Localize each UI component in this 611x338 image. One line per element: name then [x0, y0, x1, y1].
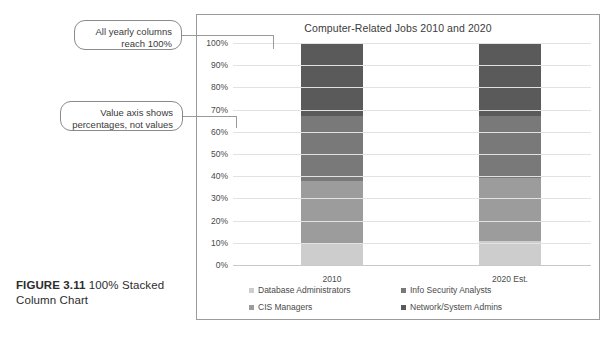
bar-segment[interactable] — [301, 243, 363, 265]
legend-item[interactable]: Info Security Analysts — [401, 285, 491, 295]
gridline — [233, 132, 591, 133]
bar-segment[interactable] — [301, 181, 363, 243]
y-axis-tick-label: 10% — [211, 238, 228, 248]
legend-label: Info Security Analysts — [410, 285, 491, 295]
bar-segment[interactable] — [301, 43, 363, 116]
bar-segment[interactable] — [301, 116, 363, 180]
legend-item[interactable]: Database Administrators — [249, 285, 401, 295]
gridline — [233, 176, 591, 177]
y-axis-tick-label: 90% — [211, 60, 228, 70]
legend-swatch-icon — [249, 288, 254, 293]
gridline — [233, 265, 591, 266]
legend-item[interactable]: Network/System Admins — [401, 302, 502, 312]
x-axis-label-2010: 2010 — [301, 274, 363, 284]
legend-swatch-icon — [401, 305, 406, 310]
y-axis-tick-label: 40% — [211, 171, 228, 181]
x-axis-label-2020: 2020 Est. — [479, 274, 541, 284]
y-axis-tick-label: 0% — [216, 260, 228, 270]
gridline — [233, 65, 591, 66]
gridline — [233, 43, 591, 44]
gridline — [233, 243, 591, 244]
legend-label: Network/System Admins — [410, 302, 502, 312]
bar-segment[interactable] — [479, 241, 541, 265]
legend-row: Database AdministratorsInfo Security Ana… — [249, 285, 559, 295]
plot-area: 2010 2020 Est. 100%90%80%70%60%50%40%30%… — [233, 43, 591, 265]
callout-all-columns-reach-100: All yearly columns reach 100% — [74, 20, 182, 50]
legend-row: CIS ManagersNetwork/System Admins — [249, 302, 559, 312]
y-axis-tick-label: 20% — [211, 216, 228, 226]
y-axis-tick-label: 70% — [211, 105, 228, 115]
chart-title: Computer-Related Jobs 2010 and 2020 — [197, 22, 599, 34]
bar-segment[interactable] — [479, 116, 541, 178]
legend-swatch-icon — [401, 288, 406, 293]
gridline — [233, 87, 591, 88]
legend-swatch-icon — [249, 305, 254, 310]
callout-connector-columns — [182, 35, 280, 51]
bar-segment[interactable] — [479, 43, 541, 116]
chart-legend: Database AdministratorsInfo Security Ana… — [249, 285, 559, 319]
figure-caption: FIGURE 3.11 100% Stacked Column Chart — [16, 278, 191, 308]
gridline — [233, 198, 591, 199]
legend-label: CIS Managers — [258, 302, 312, 312]
y-axis-tick-label: 80% — [211, 82, 228, 92]
callout-connector-axis — [183, 116, 243, 132]
legend-item[interactable]: CIS Managers — [249, 302, 401, 312]
gridline — [233, 154, 591, 155]
y-axis-tick-label: 30% — [211, 193, 228, 203]
chart-container: Computer-Related Jobs 2010 and 2020 2010… — [196, 14, 600, 320]
callout-value-axis-percentages: Value axis shows percentages, not values — [60, 101, 183, 131]
bar-segment[interactable] — [479, 178, 541, 240]
gridline — [233, 110, 591, 111]
figure-number: FIGURE 3.11 — [16, 279, 86, 291]
gridline — [233, 221, 591, 222]
y-axis-tick-label: 50% — [211, 149, 228, 159]
legend-label: Database Administrators — [258, 285, 351, 295]
